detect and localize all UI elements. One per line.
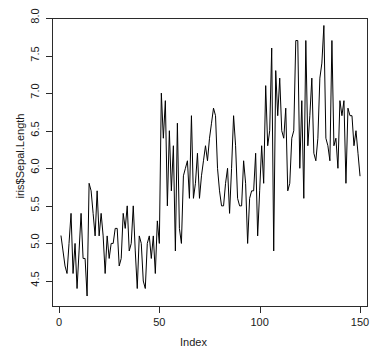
y-tick-label-text: 4.5 (28, 271, 40, 286)
x-tick-mark (59, 307, 60, 313)
y-tick-label-text: 8.0 (28, 8, 40, 23)
y-tick-mark (46, 56, 52, 57)
y-tick-label-text: 6.5 (28, 121, 40, 136)
x-axis-title: Index (0, 336, 387, 348)
y-tick-label-text: 6.0 (28, 159, 40, 174)
y-tick-label-text: 5.0 (28, 234, 40, 249)
y-tick-label: 7.5 (0, 48, 42, 60)
y-tick-label: 4.5 (0, 273, 42, 285)
y-tick-label-text: 7.0 (28, 83, 40, 98)
data-series-line (61, 26, 360, 297)
x-tick-mark (159, 307, 160, 313)
r-plot-window: 4.55.05.56.06.57.07.58.0 050100150 iris$… (0, 0, 387, 359)
plot-canvas (52, 18, 368, 307)
x-tick-label: 150 (340, 316, 380, 328)
y-tick-mark (46, 93, 52, 94)
x-tick-mark (260, 307, 261, 313)
y-tick-mark (46, 206, 52, 207)
y-tick-label-text: 7.5 (28, 46, 40, 61)
y-tick-mark (46, 281, 52, 282)
y-tick-mark (46, 168, 52, 169)
y-tick-label: 8.0 (0, 10, 42, 22)
x-tick-label: 50 (139, 316, 179, 328)
x-tick-mark (360, 307, 361, 313)
y-tick-mark (46, 243, 52, 244)
y-tick-label-text: 5.5 (28, 196, 40, 211)
x-tick-label: 100 (240, 316, 280, 328)
y-tick-label: 5.0 (0, 235, 42, 247)
y-tick-mark (46, 131, 52, 132)
x-tick-label: 0 (39, 316, 79, 328)
y-axis-title: iris$Sepal.Length (14, 96, 26, 216)
y-tick-mark (46, 18, 52, 19)
